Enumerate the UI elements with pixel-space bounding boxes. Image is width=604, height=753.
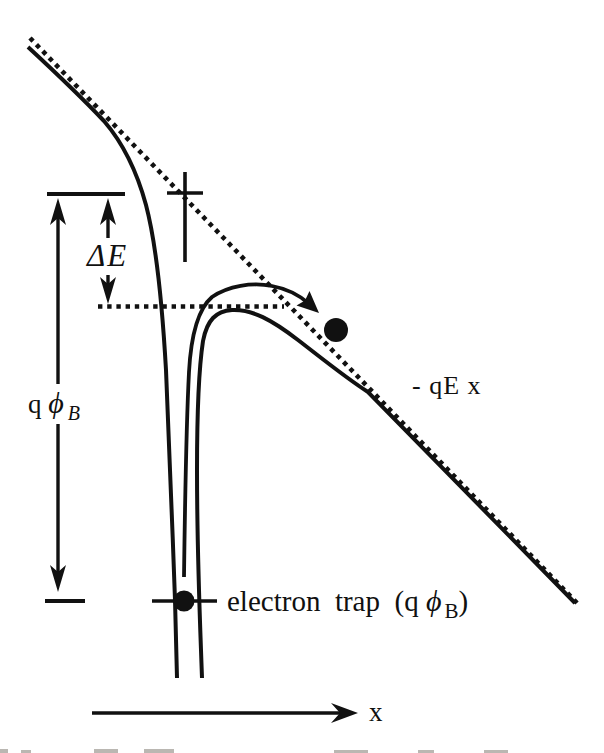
trap-label-close-paren: )	[458, 585, 468, 617]
applied-field-dotted-line	[30, 38, 578, 604]
field-potential-label: - qE x	[412, 373, 482, 399]
x-axis-arrow	[92, 703, 358, 723]
diagram-canvas	[0, 0, 604, 753]
delta-e-letter: E	[107, 238, 128, 273]
barrier-lowering-label: ΔE	[87, 240, 128, 271]
coulomb-potential-curve-left	[28, 47, 177, 678]
band-diagram-figure: ΔE q ϕB - qE x electron trap (q ϕB) x	[0, 0, 604, 753]
trapped-electron-dot	[174, 591, 195, 612]
trap-depth-label: q ϕB	[28, 388, 80, 423]
coulomb-potential-curve-right	[197, 310, 575, 678]
emitted-electron-dot	[324, 318, 348, 342]
electron-trap-label: electron trap (q ϕB)	[227, 586, 468, 622]
trap-subscript-b: B	[441, 599, 458, 623]
subscript-b: B	[64, 402, 80, 424]
electron-escape-arrow	[184, 284, 319, 577]
x-axis-label: x	[369, 699, 383, 726]
delta-glyph: Δ	[87, 238, 107, 273]
trap-phi-glyph: ϕ	[426, 584, 442, 617]
trap-label-text: electron trap (q	[227, 585, 426, 617]
q-glyph: q	[28, 389, 42, 419]
cropped-caption-fragment	[0, 749, 508, 753]
phi-glyph: ϕ	[48, 386, 64, 419]
